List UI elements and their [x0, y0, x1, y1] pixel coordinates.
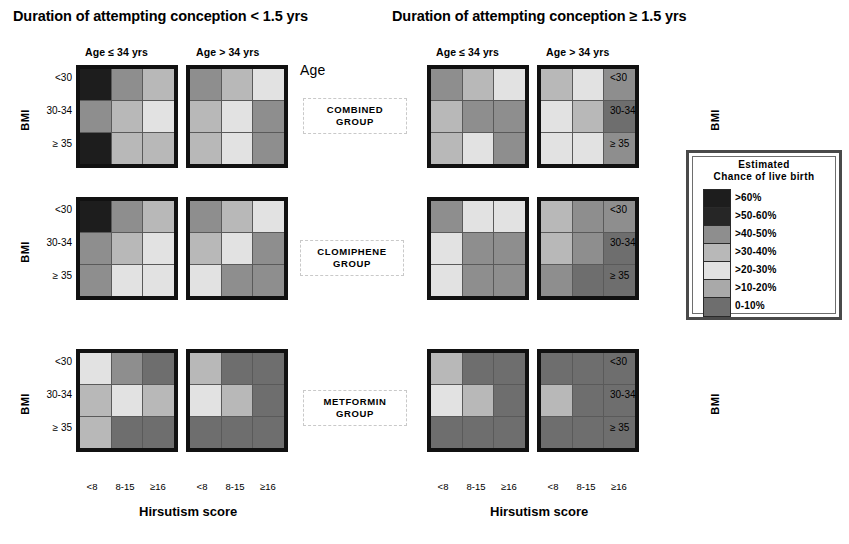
- age-header-0: Age ≤ 34 yrs: [85, 46, 148, 58]
- group-label-box-1: CLOMIPHENEGROUP: [300, 240, 404, 276]
- heatmap-cell: [541, 265, 572, 296]
- heatmap-cell: [253, 385, 284, 416]
- heatmap-cell: [222, 265, 253, 296]
- heatmap-cell: [463, 101, 494, 132]
- legend-label-list: >60%>50-60%>40-50%>30-40%>20-30%>10-20%0…: [735, 189, 777, 315]
- heatmap-cell: [463, 69, 494, 100]
- heatmap-cell: [190, 101, 221, 132]
- x-axis-title-1: Hirsutism score: [490, 504, 588, 519]
- heatmap-cell: [143, 385, 174, 416]
- heatmap-cell: [80, 233, 111, 264]
- legend-box: Estimated Chance of live birth >60%>50-6…: [686, 150, 842, 320]
- legend-entry-label: >50-60%: [735, 207, 777, 225]
- bmi-tick-label: 30-34: [610, 105, 654, 116]
- legend-entry-label: 0-10%: [735, 297, 777, 315]
- figure-canvas: Duration of attempting conception < 1.5 …: [0, 0, 849, 544]
- heatmap-cell: [431, 101, 462, 132]
- heatmap-cell: [222, 233, 253, 264]
- heatmap-cell: [190, 133, 221, 164]
- x-tick-label: 8-15: [459, 481, 493, 492]
- heatmap-cell: [541, 133, 572, 164]
- heatmap-cell: [112, 133, 143, 164]
- heatmap-cell: [190, 201, 221, 232]
- group-label-box-0: COMBINEDGROUP: [303, 98, 407, 134]
- heatmap-panel-combined-short-old: [186, 65, 288, 168]
- heatmap-cell: [143, 417, 174, 448]
- heatmap-cell: [463, 353, 494, 384]
- heatmap-cell: [80, 265, 111, 296]
- legend-entry-label: >40-50%: [735, 225, 777, 243]
- x-tick-label: <8: [185, 481, 219, 492]
- bmi-axis-title-5: BMI: [709, 393, 721, 414]
- heatmap-cell: [494, 265, 525, 296]
- heatmap-cell: [573, 417, 604, 448]
- heatmap-panel-clomiphene-long-young: [427, 197, 529, 300]
- heatmap-cell: [573, 101, 604, 132]
- legend-swatch-6: [704, 298, 730, 316]
- heatmap-cell: [190, 69, 221, 100]
- bmi-tick-label: ≥ 35: [610, 270, 654, 281]
- x-tick-label: 8-15: [218, 481, 252, 492]
- heatmap-cell: [80, 417, 111, 448]
- bmi-tick-label: 30-34: [610, 389, 654, 400]
- heatmap-cell: [222, 353, 253, 384]
- heatmap-cell: [112, 265, 143, 296]
- heatmap-cell: [143, 265, 174, 296]
- legend-entry-label: >60%: [735, 189, 777, 207]
- x-tick-label: ≥16: [602, 481, 636, 492]
- bmi-tick-label: ≥ 35: [28, 422, 72, 433]
- heatmap-cell: [431, 265, 462, 296]
- heatmap-cell: [494, 353, 525, 384]
- heatmap-cell: [143, 201, 174, 232]
- heatmap-panel-metformin-short-young: [76, 349, 178, 452]
- bmi-tick-label: <30: [28, 72, 72, 83]
- heatmap-cell: [112, 201, 143, 232]
- age-header-1: Age > 34 yrs: [196, 46, 259, 58]
- heatmap-cell: [494, 417, 525, 448]
- heatmap-cell: [190, 265, 221, 296]
- heatmap-cell: [463, 417, 494, 448]
- heatmap-cell: [222, 101, 253, 132]
- group-label-line2: GROUP: [307, 116, 403, 128]
- heatmap-cell: [573, 353, 604, 384]
- heatmap-cell: [112, 233, 143, 264]
- heatmap-cell: [80, 69, 111, 100]
- heatmap-cell: [573, 133, 604, 164]
- heatmap-cell: [463, 233, 494, 264]
- x-tick-label: 8-15: [569, 481, 603, 492]
- heatmap-cell: [112, 353, 143, 384]
- bmi-tick-label: ≥ 35: [610, 422, 654, 433]
- heatmap-cell: [494, 385, 525, 416]
- heatmap-cell: [494, 201, 525, 232]
- heatmap-cell: [80, 133, 111, 164]
- heatmap-cell: [112, 101, 143, 132]
- heatmap-cell: [253, 133, 284, 164]
- heatmap-cell: [541, 101, 572, 132]
- heatmap-cell: [190, 417, 221, 448]
- heatmap-cell: [253, 101, 284, 132]
- bmi-tick-label: <30: [28, 204, 72, 215]
- heatmap-panel-metformin-short-old: [186, 349, 288, 452]
- bmi-tick-label: ≥ 35: [610, 138, 654, 149]
- heatmap-panel-combined-short-young: [76, 65, 178, 168]
- legend-swatch-3: [704, 244, 730, 262]
- heatmap-cell: [573, 265, 604, 296]
- heatmap-cell: [494, 69, 525, 100]
- heatmap-cell: [463, 133, 494, 164]
- heatmap-cell: [253, 265, 284, 296]
- heatmap-cell: [541, 353, 572, 384]
- heatmap-cell: [112, 417, 143, 448]
- legend-swatch-5: [704, 280, 730, 298]
- bmi-tick-label: ≥ 35: [28, 270, 72, 281]
- heatmap-cell: [253, 353, 284, 384]
- heatmap-cell: [222, 201, 253, 232]
- legend-title: Estimated Chance of live birth: [689, 159, 839, 183]
- heatmap-cell: [222, 385, 253, 416]
- heatmap-cell: [431, 385, 462, 416]
- group-label-line2: GROUP: [307, 408, 403, 420]
- x-tick-label: ≥16: [141, 481, 175, 492]
- heatmap-cell: [143, 101, 174, 132]
- heatmap-cell: [253, 69, 284, 100]
- heatmap-cell: [463, 201, 494, 232]
- heatmap-cell: [463, 265, 494, 296]
